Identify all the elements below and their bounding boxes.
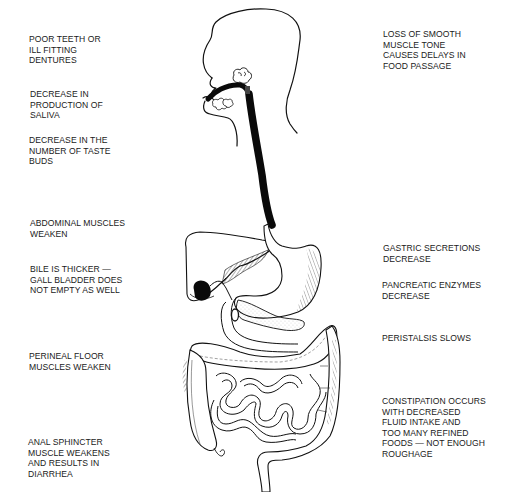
label-line: NUMBER OF TASTE [29,146,111,157]
label-line: PANCREATIC ENZYMES [382,280,481,291]
label-line: POOR TEETH OR [29,34,101,45]
label-line: BUDS [29,156,111,167]
label-line: DENTURES [29,55,101,66]
label-smooth-muscle: LOSS OF SMOOTH MUSCLE TONE CAUSES DELAYS… [383,29,466,71]
label-taste-buds: DECREASE IN THE NUMBER OF TASTE BUDS [29,135,111,167]
label-line: PRODUCTION OF [30,100,103,111]
label-bile: BILE IS THICKER — GALL BLADDER DOES NOT … [30,264,122,296]
label-line: TOO MANY REFINED [382,428,486,439]
label-line: MUSCLES WEAKEN [29,362,111,373]
label-line: CAUSES DELAYS IN [383,50,466,61]
label-pancreatic-enzymes: PANCREATIC ENZYMES DECREASE [382,280,481,301]
label-line: PERISTALSIS SLOWS [382,333,471,344]
label-line: ILL FITTING [29,45,101,56]
pharynx-marker [245,86,250,94]
label-line: WEAKEN [30,229,125,240]
label-line: WITH DECREASED [382,407,486,418]
label-line: GASTRIC SECRETIONS [383,243,480,254]
label-line: MUSCLE WEAKENS [28,448,110,459]
small-intestine [211,373,326,442]
label-line: FOOD PASSAGE [383,61,466,72]
label-line: ANAL SPHINCTER [28,437,110,448]
sublingual-gland-icon [212,98,233,110]
label-line: GALL BLADDER DOES [30,275,122,286]
label-line: FLUID INTAKE AND [382,417,486,428]
label-peristalsis: PERISTALSIS SLOWS [382,333,471,344]
label-line: LOSS OF SMOOTH [383,29,466,40]
label-line: MUSCLE TONE [383,40,466,51]
label-line: NOT EMPTY AS WELL [30,285,122,296]
label-line: DECREASE IN [30,89,103,100]
label-saliva: DECREASE IN PRODUCTION OF SALIVA [30,89,103,121]
label-line: ABDOMINAL MUSCLES [30,218,125,229]
label-line: FOODS — NOT ENOUGH [382,438,486,449]
salivary-gland-icon [233,68,251,83]
label-abdominal-muscles: ABDOMINAL MUSCLES WEAKEN [30,218,125,239]
label-line: DIARRHEA [28,469,110,480]
label-line: BILE IS THICKER — [30,264,122,275]
label-line: AND RESULTS IN [28,458,110,469]
label-perineal-floor: PERINEAL FLOOR MUSCLES WEAKEN [29,351,111,372]
label-line: DECREASE IN THE [29,135,111,146]
label-poor-teeth: POOR TEETH OR ILL FITTING DENTURES [29,34,101,66]
label-line: ROUGHAGE [382,449,486,460]
label-constipation: CONSTIPATION OCCURS WITH DECREASED FLUID… [382,396,486,460]
label-gastric-secretions: GASTRIC SECRETIONS DECREASE [383,243,480,264]
label-line: CONSTIPATION OCCURS [382,396,486,407]
label-anal-sphincter: ANAL SPHINCTER MUSCLE WEAKENS AND RESULT… [28,437,110,479]
label-line: PERINEAL FLOOR [29,351,111,362]
label-line: DECREASE [382,291,481,302]
label-line: SALIVA [30,110,103,121]
label-line: DECREASE [383,254,480,265]
